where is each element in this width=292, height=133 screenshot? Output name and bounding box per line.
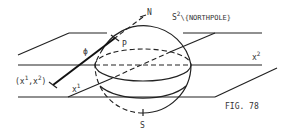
x2-axis-label: x2	[252, 50, 261, 62]
sphere-s2	[95, 26, 191, 113]
north-label: N	[147, 8, 152, 17]
projection-ray	[49, 17, 143, 88]
south-label: S	[140, 121, 145, 130]
figure-caption: FIG. 78	[225, 102, 259, 111]
north-pole-tick	[140, 15, 146, 17]
phi-label: ϕ	[83, 47, 88, 56]
upper-plane	[18, 33, 262, 55]
point-p-label: P	[122, 40, 127, 49]
sphere-label: S2\{NORTHPOLE}	[172, 10, 231, 22]
coordinate-label: (x1,x2)	[15, 74, 46, 86]
stereographic-projection-diagram: N S S2\{NORTHPOLE} P ϕ (x1,x2) x1 x2 FIG…	[0, 0, 292, 133]
